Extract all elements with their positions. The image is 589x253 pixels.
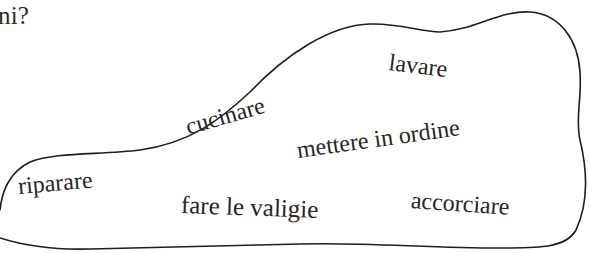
word-fare-le-valigie: fare le valigie <box>181 192 319 222</box>
word-riparare: riparare <box>17 168 93 198</box>
